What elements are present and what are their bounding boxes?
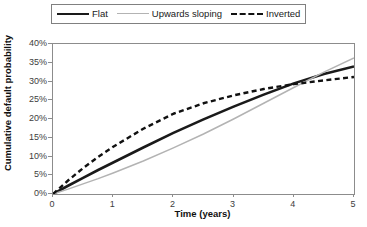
legend-label-inverted: Inverted: [266, 9, 300, 19]
y-tick-label: 10%: [13, 151, 47, 161]
legend-label-upwards-sloping: Upwards sloping: [152, 9, 222, 19]
chart-legend: Flat Upwards sloping Inverted: [51, 4, 306, 24]
chart-screenshot: Flat Upwards sloping Inverted Cumulative…: [0, 0, 367, 227]
y-tick-label: 40%: [13, 38, 47, 48]
y-tick-label: 0%: [13, 188, 47, 198]
y-tick-label: 15%: [13, 132, 47, 142]
legend-swatch-upwards-sloping-icon: [117, 9, 149, 19]
y-tick-label: 25%: [13, 94, 47, 104]
legend-item-upwards-sloping: Upwards sloping: [117, 9, 222, 19]
y-tick-label: 20%: [13, 113, 47, 123]
series-line-flat: [53, 67, 354, 195]
y-tick-label: 5%: [13, 169, 47, 179]
plot-area: [52, 43, 355, 195]
plot-curves: [53, 44, 354, 194]
legend-item-inverted: Inverted: [231, 9, 300, 19]
y-tick-label: 35%: [13, 57, 47, 67]
x-axis-title: Time (years): [52, 208, 353, 220]
legend-label-flat: Flat: [92, 9, 108, 19]
legend-swatch-flat-icon: [57, 9, 89, 19]
y-tick-label: 30%: [13, 76, 47, 86]
legend-item-flat: Flat: [57, 9, 108, 19]
legend-swatch-inverted-icon: [231, 9, 263, 19]
series-line-inverted: [53, 77, 354, 194]
